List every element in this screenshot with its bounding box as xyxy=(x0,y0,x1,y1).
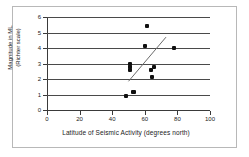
y-tick-label: 2 xyxy=(29,76,41,82)
y-axis-title-line-1: Magnitude in ML xyxy=(7,25,13,69)
x-tick-label: 60 xyxy=(135,116,155,123)
y-axis-title-line-2: (Richter scale) xyxy=(14,28,20,67)
y-tick-label: 0 xyxy=(29,107,41,113)
y-tick-label: 5 xyxy=(29,30,41,36)
x-tick-mark xyxy=(112,111,113,115)
plot-area xyxy=(47,17,210,110)
data-point xyxy=(132,90,136,94)
data-point xyxy=(128,65,132,69)
x-tick-label: 40 xyxy=(102,116,122,123)
data-point xyxy=(145,24,149,28)
x-tick-mark xyxy=(80,111,81,115)
data-point xyxy=(172,46,176,50)
data-point xyxy=(152,65,156,69)
data-point xyxy=(150,75,154,79)
data-point xyxy=(128,62,132,66)
x-tick-label: 80 xyxy=(167,116,187,123)
y-tick-label: 4 xyxy=(29,45,41,51)
x-tick-label: 0 xyxy=(37,116,57,123)
x-axis-title: Latitude of Seismic Activity (degrees no… xyxy=(20,129,232,136)
y-tick-label: 1 xyxy=(29,92,41,98)
scatter-chart: 0123456 020406080100 Magnitude in ML (Ri… xyxy=(0,0,249,157)
x-tick-mark xyxy=(177,111,178,115)
x-tick-label: 100 xyxy=(200,116,220,123)
data-point xyxy=(124,94,128,98)
x-tick-mark xyxy=(210,111,211,115)
data-point xyxy=(143,44,147,48)
x-axis-line xyxy=(47,110,210,111)
y-axis-title: Magnitude in ML (Richter scale) xyxy=(7,10,22,86)
y-tick-label: 6 xyxy=(29,14,41,20)
y-tick-label: 3 xyxy=(29,61,41,67)
x-tick-label: 20 xyxy=(70,116,90,123)
x-tick-mark xyxy=(145,111,146,115)
x-tick-mark xyxy=(47,111,48,115)
